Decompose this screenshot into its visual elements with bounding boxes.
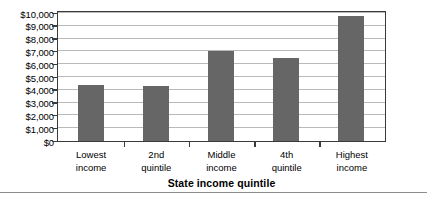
bar [78,85,104,141]
x-axis-category-label-line: quintile [254,162,319,175]
plot-area [57,11,386,142]
x-axis-category-labels: Lowestincome2ndquintileMiddleincome4thqu… [57,149,386,177]
y-axis-tick-mark [52,77,57,79]
y-axis-tick-mark [52,115,57,117]
y-axis-tick-mark [52,25,57,27]
x-axis-category-label-line: income [59,162,124,175]
x-axis-category-label-line: income [319,162,384,175]
y-axis-tick-label: $8,000 [0,35,54,45]
y-axis-tick-mark [52,38,57,40]
x-axis-category-label-line: income [189,162,254,175]
y-axis-tick-mark [52,141,57,143]
bars-layer [58,12,385,141]
y-axis-tick-label: $9,000 [0,22,54,32]
x-axis-title: State income quintile [57,177,386,189]
y-axis-tick-label: $0 [0,138,54,148]
bottom-divider [0,192,427,193]
bar-chart-figure: $10,000$9,000$8,000$7,000$6,000$5,000$4,… [0,0,427,201]
y-axis-tick-label: $10,000 [0,10,54,20]
y-axis-tick-label: $4,000 [0,86,54,96]
bar [273,58,299,141]
bar [143,86,169,141]
x-axis-category-label: 2ndquintile [124,149,189,174]
x-axis-tick-mark [319,142,321,147]
y-axis-tick-labels: $10,000$9,000$8,000$7,000$6,000$5,000$4,… [0,12,54,142]
y-axis-tick-mark [52,64,57,66]
x-axis-tick-mark [124,142,126,147]
x-axis-category-label-line: Lowest [59,149,124,162]
x-axis-category-label: Middleincome [189,149,254,174]
y-axis-tick-label: $2,000 [0,112,54,122]
y-axis-tick-label: $7,000 [0,48,54,58]
y-axis-tick-mark [52,13,57,15]
x-axis-category-label: 4thquintile [254,149,319,174]
x-axis-category-label: Highestincome [319,149,384,174]
bar [208,51,234,141]
x-axis-category-label-line: Highest [319,149,384,162]
y-axis-tick-mark [52,89,57,91]
y-axis-tick-label: $6,000 [0,61,54,71]
x-axis-category-label-line: 2nd [124,149,189,162]
x-axis-tick-mark [254,142,256,147]
x-axis-tick-mark [189,142,191,147]
bar [338,16,364,141]
x-axis-category-label-line: Middle [189,149,254,162]
x-axis-category-label: Lowestincome [59,149,124,174]
y-axis-tick-mark [52,102,57,104]
x-axis-category-label-line: quintile [124,162,189,175]
x-axis-category-label-line: 4th [254,149,319,162]
y-axis-tick-mark [52,128,57,130]
y-axis-tick-label: $5,000 [0,74,54,84]
y-axis-tick-mark [52,51,57,53]
y-axis-tick-label: $1,000 [0,125,54,135]
y-axis-tick-label: $3,000 [0,99,54,109]
